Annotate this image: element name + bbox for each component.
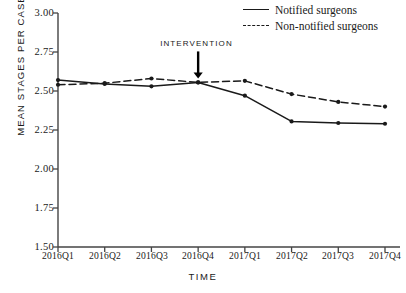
plot-area [0, 0, 406, 293]
chart-container: MEAN STAGES PER CASE TIME 3.00 2.75 2.50… [0, 0, 406, 293]
